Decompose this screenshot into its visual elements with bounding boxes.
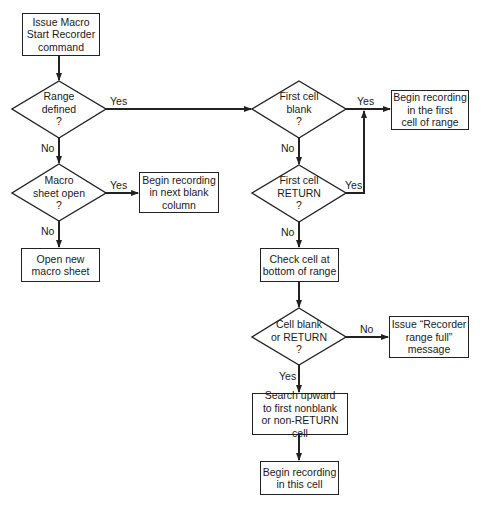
node-text: Begin recording in next blank column: [142, 174, 216, 212]
process-range-full-message: Issue “Recorder range full” message: [389, 316, 469, 358]
edge-label-range-yes: Yes: [110, 95, 127, 107]
process-issue-macro-start-recorder: Issue Macro Start Recorder command: [22, 13, 100, 56]
process-begin-next-blank-column: Begin recording in next blank column: [139, 172, 219, 213]
edge-label-first-blank-no: No: [281, 142, 294, 154]
process-begin-first-cell-of-range: Begin recording in the first cell of ran…: [391, 90, 469, 130]
edge-label-macro-no: No: [41, 225, 54, 237]
edge-label-cell-check-no: No: [360, 323, 373, 335]
node-text: Issue Macro Start Recorder command: [27, 16, 95, 54]
decision-first-cell-blank-label: First cell blank ?: [259, 88, 339, 130]
edge-label-macro-yes: Yes: [110, 179, 127, 191]
decision-range-defined-label: Range defined ?: [19, 88, 99, 130]
process-open-new-macro-sheet: Open new macro sheet: [21, 248, 100, 282]
node-text: Begin recording in this cell: [263, 466, 337, 491]
edge-label-cell-check-yes: Yes: [279, 370, 296, 382]
process-check-bottom-cell: Check cell at bottom of range: [260, 248, 339, 282]
decision-cell-blank-or-return-label: Cell blank or RETURN ?: [259, 316, 339, 358]
node-text: Open new macro sheet: [32, 253, 90, 278]
node-text: Issue “Recorder range full” message: [392, 318, 467, 356]
process-begin-this-cell: Begin recording in this cell: [260, 461, 339, 495]
edge-label-range-no: No: [41, 142, 54, 154]
node-text: Search upward to first nonblank or non-R…: [253, 389, 347, 439]
edge-label-first-blank-yes: Yes: [357, 95, 374, 107]
process-search-upward: Search upward to first nonblank or non-R…: [252, 393, 348, 435]
decision-first-cell-return-label: First cell RETURN ?: [259, 172, 339, 214]
flowchart-canvas: Issue Macro Start Recorder command Begin…: [0, 0, 482, 509]
edge-label-first-return-yes: Yes: [345, 179, 362, 191]
edge-label-first-return-no: No: [281, 226, 294, 238]
node-text: Check cell at bottom of range: [263, 253, 337, 278]
decision-macro-sheet-open-label: Macro sheet open ?: [19, 172, 99, 214]
node-text: Begin recording in the first cell of ran…: [393, 91, 467, 129]
